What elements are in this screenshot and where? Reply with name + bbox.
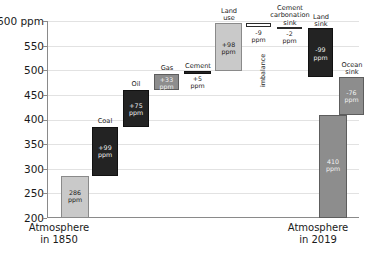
bar-atmosphere-2019[interactable]: 410 ppm <box>319 115 347 218</box>
tick-200 <box>43 218 47 219</box>
tick-450 <box>43 95 47 96</box>
y-tick-300: 300 <box>24 164 44 174</box>
bar-land-use[interactable]: +98 ppm <box>215 23 242 71</box>
bar-label-ocean-sink: Ocean sink <box>333 62 367 77</box>
y-tick-250: 250 <box>24 188 44 198</box>
bar-value-gas: +33 ppm <box>155 76 178 90</box>
bar-oil[interactable]: +75 ppm <box>123 90 149 127</box>
plot-area: 286 ppm +99 ppm Coal +75 ppm Oil +33 ppm… <box>47 21 359 218</box>
bar-imbalance[interactable] <box>246 23 271 27</box>
tick-400 <box>43 120 47 121</box>
bar-value-ocean-sink: -76 ppm <box>340 89 363 103</box>
y-axis-labels: 600 ppm 550 500 450 400 350 300 250 200 <box>0 21 44 218</box>
y-tick-500: 500 <box>24 65 44 75</box>
bar-value-land-sink: -99 ppm <box>309 46 332 60</box>
bar-value-atmosphere-2019: 410 ppm <box>320 158 346 172</box>
waterfall-chart: 600 ppm 550 500 450 400 350 300 250 200 <box>0 0 367 253</box>
gridline-250 <box>47 193 359 194</box>
imbalance-axis-annotation: imbalance <box>259 54 267 87</box>
bar-value-oil: +75 ppm <box>124 102 148 116</box>
y-tick-550: 550 <box>24 41 44 51</box>
y-tick-600: 600 ppm <box>0 16 44 26</box>
bar-label-land-sink: Land sink <box>302 14 340 29</box>
bar-atmosphere-1850[interactable]: 286 ppm <box>61 176 89 218</box>
bar-label-coal: Coal <box>84 118 126 125</box>
bar-value-imbalance: -9 ppm <box>246 29 271 43</box>
bar-gas[interactable]: +33 ppm <box>154 74 179 90</box>
y-tick-350: 350 <box>24 139 44 149</box>
tick-550 <box>43 46 47 47</box>
y-axis-line <box>47 21 48 218</box>
y-tick-450: 450 <box>24 90 44 100</box>
x-axis-label-2019: Atmosphere in 2019 <box>269 222 367 246</box>
bar-label-cement: Cement <box>179 63 217 70</box>
bar-value-coal: +99 ppm <box>93 144 117 158</box>
tick-300 <box>43 169 47 170</box>
bar-ocean-sink[interactable]: -76 ppm <box>339 77 364 114</box>
x-axis-baseline <box>47 217 359 218</box>
bar-value-cement-carbonation-sink: -2 ppm <box>277 30 302 44</box>
gridline-450 <box>47 95 359 96</box>
bar-label-land-use: Land use <box>210 8 248 23</box>
tick-500 <box>43 70 47 71</box>
tick-350 <box>43 144 47 145</box>
bar-label-oil: Oil <box>117 81 155 88</box>
tick-250 <box>43 193 47 194</box>
bar-cement[interactable] <box>184 71 211 74</box>
bar-value-cement: +5 ppm <box>184 75 211 89</box>
y-tick-400: 400 <box>24 114 44 124</box>
x-axis-label-1850: Atmosphere in 1850 <box>9 222 109 246</box>
bar-value-atmosphere-1850: 286 ppm <box>62 189 88 203</box>
bar-value-land-use: +98 ppm <box>216 41 241 55</box>
bar-land-sink[interactable]: -99 ppm <box>308 28 333 77</box>
bar-coal[interactable]: +99 ppm <box>92 127 118 176</box>
tick-600 <box>43 21 47 22</box>
